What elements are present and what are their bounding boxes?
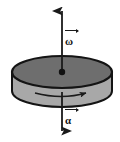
- omega-vector-overbar-icon: [65, 30, 78, 31]
- alpha-glyph: α: [65, 115, 71, 126]
- physics-diagram-canvas: [0, 0, 120, 142]
- omega-glyph: ω: [65, 36, 73, 47]
- rotating-disk-figure: ω α: [0, 0, 120, 142]
- omega-vector-label: ω: [65, 30, 78, 48]
- alpha-vector-label: α: [65, 109, 78, 127]
- alpha-vector-overbar-icon: [65, 109, 78, 110]
- disk-center-point: [59, 69, 65, 75]
